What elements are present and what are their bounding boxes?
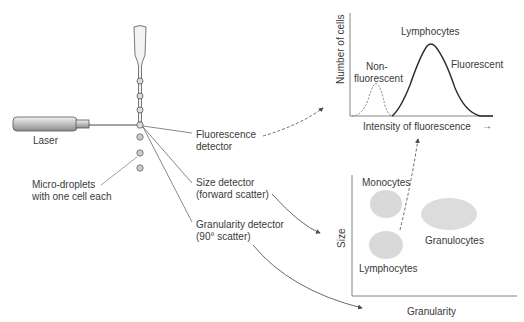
nonfluorescent-curve (352, 83, 394, 116)
laser-label: Laser (33, 135, 58, 147)
granularity-detector-label-line1: Granularity detector (196, 219, 284, 231)
droplets-leader-line (101, 157, 137, 185)
granulocytes-cluster (421, 198, 477, 230)
fluorescent-label: Fluorescent (451, 59, 503, 71)
scatterplot-y-label: Size (336, 229, 347, 248)
fluorescence-arrow (263, 108, 323, 136)
granulocytes-label: Granulocytes (425, 235, 484, 247)
fluorescence-detector-label-line2: detector (196, 141, 232, 153)
lymphocytes-label: Lymphocytes (359, 263, 418, 275)
nonfluorescent-label-line2: fluorescent (354, 73, 403, 85)
fluorescence-leader-line (143, 126, 192, 133)
nonfluorescent-label-line1: Non- (366, 61, 388, 73)
droplets-label-line2: with one cell each (32, 191, 112, 203)
droplets-icon (137, 134, 143, 171)
scatterplot-x-label: Granularity (407, 306, 456, 318)
flow-cytometry-diagram: Laser Micro-droplets with one cell each … (0, 0, 524, 322)
granularity-arrow (253, 245, 362, 308)
size-detector-label-line2: (forward scatter) (196, 189, 269, 201)
fluorescence-detector-label-line1: Fluorescence (196, 129, 256, 141)
laser-icon (13, 117, 139, 131)
lymphocytes-cluster (369, 231, 403, 259)
size-detector-label-line1: Size detector (196, 177, 254, 189)
monocytes-cluster (370, 190, 402, 218)
droplets-label-line1: Micro-droplets (32, 179, 95, 191)
monocytes-label: Monocytes (362, 177, 410, 189)
arrow-right-icon: → (482, 120, 492, 132)
histogram-y-label: Number of cells (335, 15, 346, 84)
histogram-x-label: Intensity of fluorescence (363, 121, 471, 133)
lymphocytes-peak-label: Lymphocytes (401, 26, 460, 38)
fluorescent-curve (392, 44, 493, 116)
granularity-detector-label-line2: (90° scatter) (196, 231, 251, 243)
nozzle-icon (134, 26, 146, 129)
diagram-graphics (0, 0, 524, 322)
